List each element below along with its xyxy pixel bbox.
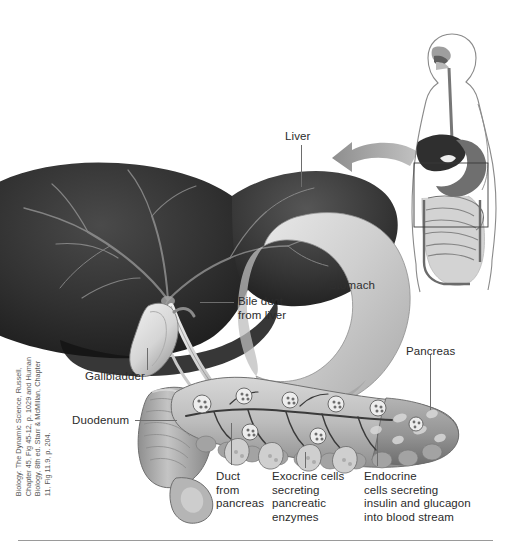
anatomy-figure: Liver Bile duct from liver Gallbladder D… xyxy=(0,0,511,557)
label-pancreas: Pancreas xyxy=(406,345,455,359)
magnify-arrow xyxy=(332,142,418,172)
leader-exocrine xyxy=(305,452,306,468)
footer-divider xyxy=(18,540,493,541)
label-gallbladder: Gallbladder xyxy=(85,370,145,384)
human-body-digestive-tract-inset xyxy=(412,34,496,292)
leader-liver xyxy=(301,145,302,187)
label-liver: Liver xyxy=(285,130,310,144)
leader-gallbladder xyxy=(147,348,148,370)
pancreas-organ xyxy=(171,377,458,473)
label-duct-from-pancreas: Duct from pancreas xyxy=(216,470,264,511)
leader-duct-from-pancreas xyxy=(231,423,232,465)
label-endocrine-cells: Endocrine cells secreting insulin and gl… xyxy=(364,470,471,524)
leader-duodenum xyxy=(135,420,177,421)
leader-endocrine xyxy=(377,434,378,466)
liver-organ xyxy=(0,162,398,376)
label-duodenum: Duodenum xyxy=(72,414,129,428)
leader-bile-duct xyxy=(200,302,234,303)
source-credit: Biology: The Dynamic Science, Russell, C… xyxy=(14,326,52,496)
label-stomach: Stomach xyxy=(329,279,375,293)
label-bile-duct: Bile duct from liver xyxy=(238,295,286,322)
label-exocrine-cells: Exocrine cells secreting pancreatic enzy… xyxy=(272,470,344,524)
leader-pancreas xyxy=(430,355,431,410)
